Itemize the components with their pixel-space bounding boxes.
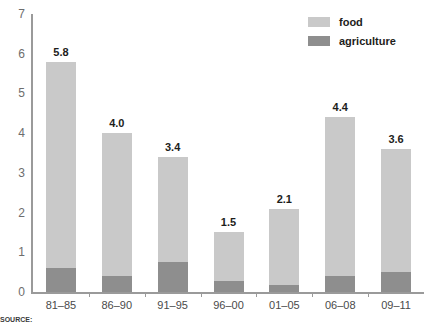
bar-segment-food[interactable]: [381, 149, 411, 272]
bar-segment-agriculture[interactable]: [158, 262, 188, 292]
x-tick-mark: [89, 292, 90, 297]
y-tick-label-7: 7: [0, 8, 25, 20]
bar-group-06–08[interactable]: [325, 117, 355, 292]
x-tick-mark: [368, 292, 369, 297]
y-tick-label-0: 0: [0, 286, 25, 298]
x-tick-mark: [256, 292, 257, 297]
x-tick-label-3: 96–00: [199, 299, 259, 311]
bar-segment-agriculture[interactable]: [102, 276, 132, 292]
x-axis-line: [31, 292, 424, 294]
bar-group-81–85[interactable]: [46, 62, 76, 292]
x-tick-mark: [145, 292, 146, 297]
y-tick-label-2: 2: [0, 207, 25, 219]
x-tick-mark: [201, 292, 202, 297]
legend-label-agriculture: agriculture: [339, 35, 396, 47]
bar-group-01–05[interactable]: [269, 209, 299, 292]
legend-swatch-food: [308, 17, 330, 27]
bar-segment-food[interactable]: [214, 232, 244, 281]
bar-segment-food[interactable]: [102, 133, 132, 276]
x-tick-label-2: 91–95: [143, 299, 203, 311]
y-tick-label-5: 5: [0, 87, 25, 99]
x-tick-mark: [312, 292, 313, 297]
bar-group-96–00[interactable]: [214, 232, 244, 292]
bar-total-label-09–11: 3.6: [366, 133, 426, 145]
bar-group-09–11[interactable]: [381, 149, 411, 292]
source-note-cropped: SOURCE:: [0, 316, 432, 322]
stacked-bar-chart: 76543210 81–8586–9091–9596–0001–0506–080…: [0, 0, 432, 322]
bar-segment-food[interactable]: [325, 117, 355, 276]
x-tick-label-6: 09–11: [366, 299, 426, 311]
bar-segment-agriculture[interactable]: [214, 281, 244, 292]
bar-segment-food[interactable]: [269, 209, 299, 285]
legend-label-food: food: [339, 16, 363, 28]
bar-total-label-06–08: 4.4: [310, 101, 370, 113]
y-tick-label-3: 3: [0, 167, 25, 179]
bar-segment-food[interactable]: [46, 62, 76, 269]
bar-segment-agriculture[interactable]: [381, 272, 411, 292]
legend-swatch-agriculture: [308, 36, 330, 46]
y-tick-label-6: 6: [0, 48, 25, 60]
bar-total-label-91–95: 3.4: [143, 141, 203, 153]
bar-segment-agriculture[interactable]: [46, 268, 76, 292]
x-tick-label-1: 86–90: [87, 299, 147, 311]
bar-segment-food[interactable]: [158, 157, 188, 262]
bar-total-label-01–05: 2.1: [254, 193, 314, 205]
x-tick-label-5: 06–08: [310, 299, 370, 311]
x-tick-label-0: 81–85: [31, 299, 91, 311]
y-tick-label-4: 4: [0, 127, 25, 139]
legend-item-food[interactable]: food: [308, 13, 426, 30]
legend-item-agriculture[interactable]: agriculture: [308, 32, 426, 49]
bar-segment-agriculture[interactable]: [325, 276, 355, 292]
bar-group-91–95[interactable]: [158, 157, 188, 292]
source-note-prefix: SOURCE:: [0, 316, 32, 322]
y-tick-label-1: 1: [0, 246, 25, 258]
bar-segment-agriculture[interactable]: [269, 285, 299, 292]
bar-group-86–90[interactable]: [102, 133, 132, 292]
bar-total-label-96–00: 1.5: [199, 216, 259, 228]
chart-legend: foodagriculture: [308, 13, 426, 51]
bar-total-label-86–90: 4.0: [87, 117, 147, 129]
x-tick-label-4: 01–05: [254, 299, 314, 311]
bar-total-label-81–85: 5.8: [31, 46, 91, 58]
